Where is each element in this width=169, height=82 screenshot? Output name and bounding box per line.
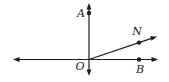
label-N: N [131, 25, 142, 38]
horizontal-line-end-arrowhead [152, 57, 159, 62]
point-B [137, 57, 141, 61]
vertical-line-start-arrowhead [87, 3, 92, 10]
label-A: A [76, 7, 85, 20]
geometry-figure-container: ANOB [0, 0, 169, 82]
horizontal-line-start-arrowhead [13, 57, 20, 62]
vertical-line-end-arrowhead [87, 70, 92, 77]
point-N [137, 40, 141, 44]
ray-O-N-end-arrowhead [150, 36, 157, 41]
point-A [87, 11, 91, 15]
label-O: O [75, 60, 84, 73]
ray-O-N [89, 38, 152, 59]
label-B: B [135, 63, 144, 76]
geometry-figure: ANOB [0, 0, 169, 82]
